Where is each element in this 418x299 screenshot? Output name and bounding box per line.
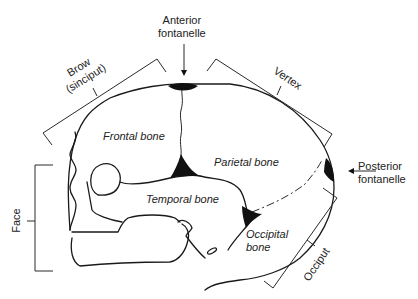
parietal-bone-label: Parietal bone <box>214 156 279 169</box>
anterior-arrow-head <box>181 70 187 76</box>
anterior-fontanelle-label: Anterior fontanelle <box>158 14 206 40</box>
posterior-fontanelle-mark <box>324 158 334 182</box>
face-outline <box>70 132 76 230</box>
maxilla <box>72 215 180 232</box>
coronal-suture <box>180 86 182 160</box>
mandible <box>71 224 188 266</box>
fetal-skull-diagram: Anterior fontanelle Posterior fontanelle… <box>0 0 418 299</box>
posterior-fontanelle-label: Posterior fontanelle <box>358 160 406 186</box>
face-label: Face <box>10 208 23 232</box>
sphenoidal-fontanelle-mark <box>170 154 200 178</box>
face-bracket <box>35 165 53 271</box>
brow-bracket-tick <box>93 88 97 96</box>
skull-drawing <box>0 0 418 299</box>
vertex-bracket <box>207 59 332 147</box>
mastoid <box>178 220 205 258</box>
vertex-bracket-tick <box>277 86 281 95</box>
occipital-bone-label: Occipital bone <box>246 228 288 254</box>
temporal-bone-label: Temporal bone <box>146 193 219 206</box>
orbit <box>91 164 121 195</box>
styloid <box>207 247 218 255</box>
posterior-arrow-head <box>348 168 354 174</box>
frontal-bone-label: Frontal bone <box>103 130 165 143</box>
frontal-temporal-suture <box>120 175 200 184</box>
